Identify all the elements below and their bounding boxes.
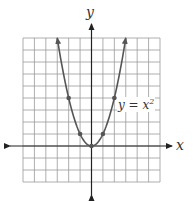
data-point [112, 96, 117, 101]
equation-label: y = x2 [117, 97, 155, 112]
data-point [101, 132, 106, 137]
parabola-curve-left [57, 38, 91, 146]
x-axis-label: x [176, 137, 184, 153]
data-point [89, 144, 94, 149]
data-point [78, 132, 83, 137]
equation-base: y = x [118, 98, 149, 112]
parabola-curve-right [92, 38, 126, 146]
y-axis-label: y [86, 4, 94, 20]
parabola-graph [0, 0, 193, 201]
data-point [66, 96, 71, 101]
equation-exponent: 2 [149, 97, 154, 106]
